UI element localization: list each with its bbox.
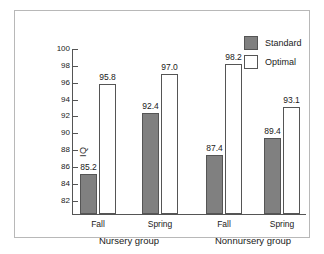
bar-standard-2: 87.4 — [206, 155, 223, 214]
x-category-label-3: Spring — [270, 219, 295, 230]
bar-standard-0: 85.2 — [80, 174, 97, 214]
y-tick-label: 92 — [61, 110, 70, 121]
y-tick-mark — [73, 116, 78, 117]
x-category-label-1: Spring — [148, 219, 173, 230]
bar-value-label: 95.8 — [99, 72, 116, 83]
y-tick-mark — [73, 83, 78, 84]
chart-figure: Standard Optimal IQ 82848688909294969810… — [0, 0, 324, 254]
x-category-label-0: Fall — [91, 219, 105, 230]
x-group-label-1: Nonnursery group — [215, 235, 291, 247]
y-tick-label: 88 — [61, 144, 70, 155]
x-group-label-0: Nursery group — [99, 235, 159, 247]
y-tick-mark — [73, 201, 78, 202]
bar-standard-1: 92.4 — [142, 113, 159, 214]
y-tick-mark — [73, 184, 78, 185]
y-tick-mark — [73, 49, 78, 50]
y-tick-label: 100 — [57, 43, 70, 54]
y-axis-title: IQ — [78, 146, 88, 157]
y-tick-label: 94 — [61, 94, 70, 105]
y-tick-mark — [73, 133, 78, 134]
y-tick-mark — [73, 66, 78, 67]
y-tick-label: 90 — [61, 127, 70, 138]
bar-optimal-2: 98.2 — [225, 64, 242, 214]
bar-optimal-3: 93.1 — [283, 107, 300, 214]
legend-label-standard: Standard — [265, 37, 302, 49]
y-tick-mark — [73, 100, 78, 101]
filled-gray-swatch-icon — [244, 36, 258, 50]
bar-standard-3: 89.4 — [264, 138, 281, 214]
bar-optimal-1: 97.0 — [161, 74, 178, 214]
y-tick-mark — [73, 150, 78, 151]
y-tick-label: 82 — [61, 195, 70, 206]
y-axis-line — [72, 49, 73, 214]
y-tick-label: 98 — [61, 60, 70, 71]
bar-value-label: 98.2 — [225, 52, 242, 63]
x-axis-line — [72, 214, 306, 215]
y-tick-label: 96 — [61, 77, 70, 88]
plot-area: IQ 828486889092949698100 85.295.892.497.… — [72, 49, 306, 214]
bar-value-label: 93.1 — [283, 95, 300, 106]
bar-optimal-0: 95.8 — [99, 84, 116, 214]
figure-border: Standard Optimal IQ 82848688909294969810… — [14, 10, 310, 238]
x-category-label-2: Fall — [217, 219, 231, 230]
bar-value-label: 85.2 — [80, 162, 97, 173]
bar-value-label: 97.0 — [161, 62, 178, 73]
bar-value-label: 92.4 — [142, 101, 159, 112]
y-tick-mark — [73, 167, 78, 168]
y-tick-label: 84 — [61, 178, 70, 189]
y-tick-label: 86 — [61, 161, 70, 172]
bar-value-label: 87.4 — [206, 143, 223, 154]
bar-value-label: 89.4 — [264, 126, 281, 137]
